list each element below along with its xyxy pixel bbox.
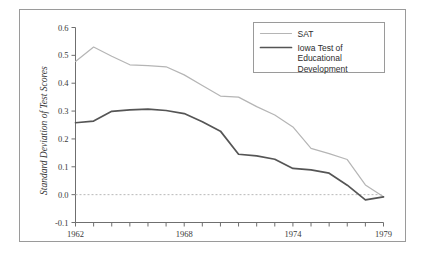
series-line-iowa-test-of-educational-development: [76, 109, 384, 200]
line-chart: Standard Deviation of Test Scores -0.10.…: [0, 0, 427, 257]
y-tick-label: 0.2: [58, 134, 69, 144]
y-tick-label: 0.0: [58, 190, 69, 200]
y-axis-title: Standard Deviation of Test Scores: [39, 66, 49, 195]
y-tick-label: 0.1: [58, 162, 69, 172]
y-axis: -0.10.00.10.20.30.40.50.6: [55, 23, 75, 228]
y-tick-label: 0.6: [58, 23, 69, 33]
y-tick-label: 0.3: [58, 106, 69, 116]
y-axis-title-label: Standard Deviation of Test Scores: [39, 66, 49, 195]
y-tick-label: 0.5: [58, 50, 69, 60]
legend-label-2: Educational: [298, 53, 343, 63]
legend-label-2: Development: [298, 64, 349, 74]
x-axis: 1962196819741979: [67, 223, 392, 239]
legend-label-1: SAT: [298, 29, 314, 39]
legend-label-2: Iowa Test of: [298, 43, 344, 53]
x-tick-label: 1974: [284, 229, 302, 239]
chart-legend: SATIowa Test ofEducationalDevelopment: [254, 23, 385, 74]
y-tick-label: 0.4: [58, 78, 69, 88]
y-tick-label: -0.1: [55, 218, 68, 228]
figure-root: Standard Deviation of Test Scores -0.10.…: [0, 0, 427, 257]
x-tick-label: 1962: [67, 229, 84, 239]
x-tick-label: 1979: [375, 229, 392, 239]
x-tick-label: 1968: [176, 229, 193, 239]
